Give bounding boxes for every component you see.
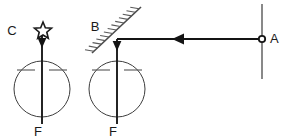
mirror-hatch-stroke [104,32,113,34]
object-point-A-marker [259,36,265,42]
label-F-left: F [34,124,42,139]
mirror-hatch-stroke [89,46,98,48]
mirror-hatch-stroke [126,11,135,13]
optics-diagram: C B A F F [0,0,286,140]
mirror-hatch-stroke [115,21,124,23]
mirror-hatch-stroke [123,14,132,16]
mirror-hatch-stroke [130,7,139,9]
mirror-hatch-stroke [100,36,109,38]
mirror-hatch-stroke [85,50,94,52]
mirror-hatch-stroke [119,18,128,20]
mirror-hatch-stroke [108,28,117,30]
label-A: A [270,31,279,46]
right-axis-arrowhead [113,41,122,51]
mirror-hatch-stroke [96,39,105,41]
mirror-hatch-stroke [93,43,102,45]
diagram-canvas: C B A F F [0,0,286,140]
incident-ray-arrowhead [172,34,184,45]
mirror-hatch-stroke [111,25,120,27]
left-axis-arrowhead [38,38,47,48]
label-B: B [91,19,100,34]
label-F-right: F [109,124,117,139]
label-C: C [7,23,16,38]
star-source-icon [34,22,51,38]
